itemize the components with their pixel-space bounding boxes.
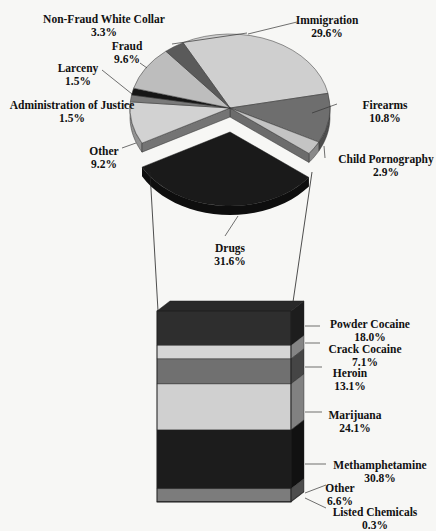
label-administration-of-justice: Administration of Justice1.5% [10, 99, 135, 125]
bar-segment-methamphetamine [157, 430, 291, 489]
label-other-drug: Other6.6% [325, 482, 354, 508]
label-child-pornography: Child Pornography2.9% [338, 153, 434, 179]
label-heroin: Heroin13.1% [333, 367, 367, 393]
leader-other [122, 143, 136, 148]
leader-child-porn [324, 146, 325, 158]
bar-segment-crack-cocaine [157, 345, 291, 359]
bar-segment-other [157, 489, 291, 502]
leader-other-drug [305, 485, 326, 493]
connector-line-left [150, 172, 158, 311]
bar-segment-heroin [157, 359, 291, 384]
leader-immigration [248, 22, 297, 34]
label-listed-chemicals: Listed Chemicals0.3% [333, 506, 418, 531]
label-immigration: Immigration29.6% [296, 14, 359, 40]
bar-segment-marijuana [157, 384, 291, 430]
label-non-fraud-white-collar: Non-Fraud White Collar3.3% [43, 13, 165, 39]
label-fraud: Fraud9.6% [112, 40, 143, 66]
label-marijuana: Marijuana24.1% [328, 409, 381, 435]
label-crack-cocaine: Crack Cocaine7.1% [328, 343, 401, 369]
label-other-offense: Other9.2% [89, 145, 118, 171]
leader-drugs [225, 216, 238, 236]
leader-larceny [102, 70, 132, 94]
label-drugs: Drugs31.6% [214, 242, 246, 268]
label-powder-cocaine: Powder Cocaine18.0% [330, 318, 410, 344]
bar-segment-powder-cocaine [157, 311, 291, 345]
bar-side-methamphetamine [291, 420, 304, 489]
label-firearms: Firearms10.8% [362, 99, 407, 125]
bar-top-face [157, 301, 304, 311]
label-larceny: Larceny1.5% [58, 62, 99, 88]
leader-listed-chemicals [305, 498, 326, 508]
offense-type-chart: Non-Fraud White Collar3.3% Immigration29… [0, 0, 436, 531]
